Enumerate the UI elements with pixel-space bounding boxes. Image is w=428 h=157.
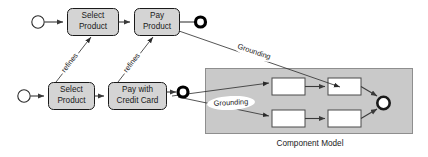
abstract-process-lane: Select Product Pay Product xyxy=(32,9,206,36)
select-product-refined-line2: Product xyxy=(57,96,86,105)
select-product-abstract-line1: Select xyxy=(82,11,105,20)
component-bottom-left[interactable] xyxy=(272,110,305,127)
select-product-refined-line1: Select xyxy=(60,85,83,94)
abstract-end-node[interactable] xyxy=(196,17,206,27)
component-top-left[interactable] xyxy=(272,78,305,95)
component-end-node[interactable] xyxy=(377,97,389,109)
diagram-canvas: Component Model Grounding Grounding Sele… xyxy=(0,0,428,157)
component-top-right[interactable] xyxy=(328,78,361,95)
refined-process-lane: Select Product Pay with Credit Card xyxy=(18,83,188,110)
pay-product-abstract-line2: Product xyxy=(143,22,172,31)
refines-relations-group: refines refines xyxy=(56,37,153,82)
process-grounding-diagram: Component Model Grounding Grounding Sele… xyxy=(0,0,428,157)
refined-end-node[interactable] xyxy=(178,87,188,97)
pay-with-credit-card-line1: Pay with xyxy=(122,85,153,94)
component-model-caption: Component Model xyxy=(277,139,344,148)
refined-start-node[interactable] xyxy=(18,90,30,102)
abstract-start-node[interactable] xyxy=(32,16,44,28)
pay-with-credit-card-line2: Credit Card xyxy=(117,96,159,105)
grounding-lower-label: Grounding xyxy=(214,97,249,108)
select-product-abstract-line2: Product xyxy=(79,22,108,31)
pay-product-abstract-line1: Pay xyxy=(150,11,165,20)
component-bottom-right[interactable] xyxy=(328,110,361,127)
